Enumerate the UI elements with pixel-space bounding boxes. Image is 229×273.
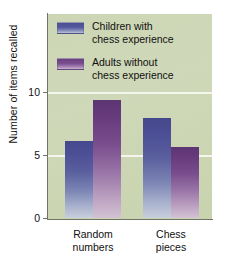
bar-chess-pieces-children [143,118,171,218]
legend-item-children: Children with chess experience [57,20,174,45]
legend-label-children: Children with chess experience [92,20,174,45]
y-tick-label-5: 5 [10,150,40,161]
x-category-label-random-numbers-line2: numbers [56,241,130,254]
y-axis-title: Number of items recalled [7,9,19,159]
x-category-label-chess-pieces-line2: pieces [134,241,208,254]
legend-label-adults: Adults without chess experience [92,56,174,81]
legend-label-children-line1: Children with [92,20,153,32]
y-tick-label-10: 10 [10,87,40,98]
x-axis-line [47,219,213,220]
legend-item-adults: Adults without chess experience [57,56,174,81]
legend-label-adults-line2: chess experience [92,69,174,81]
x-category-label-chess-pieces-line1: Chess [156,228,186,240]
bar-chess-pieces-adults [171,147,199,218]
y-tick-label-0: 0 [10,213,40,224]
gridline-10 [48,92,212,94]
x-category-label-random-numbers-line1: Random [73,228,113,240]
bar-chart: Number of items recalled 10 5 0 Children… [0,0,229,273]
y-axis-line [47,13,48,220]
legend-swatch-icon-adults [57,58,84,70]
bar-random-numbers-children [65,141,93,218]
x-category-label-chess-pieces: Chess pieces [134,228,208,254]
legend-label-adults-line1: Adults without [92,56,157,68]
x-category-label-random-numbers: Random numbers [56,228,130,254]
legend-label-children-line2: chess experience [92,33,174,45]
legend-swatch-icon-children [57,22,84,34]
bar-random-numbers-adults [93,100,121,218]
